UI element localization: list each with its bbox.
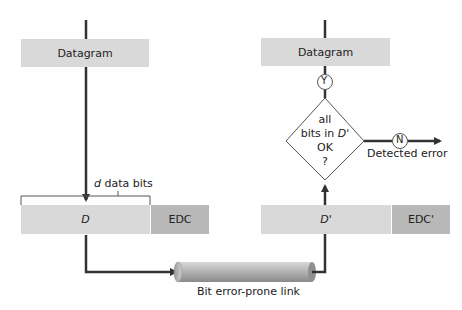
receiver-data-label: D': [320, 213, 332, 226]
sender-edc-label: EDC: [168, 213, 191, 226]
sender-datagram-label: Datagram: [57, 47, 112, 60]
sender-data-label: D: [81, 213, 89, 226]
receiver-edc-label: EDC': [408, 213, 434, 226]
receiver-data-field: D': [261, 205, 391, 234]
receiver-datagram-box: Datagram: [261, 38, 390, 66]
sender-datagram-box: Datagram: [21, 39, 149, 67]
no-label: N: [396, 134, 403, 145]
sender-to-link-line: [86, 235, 170, 272]
sender-edc-field: EDC: [151, 205, 209, 234]
decision-text: all bits in D' OK ?: [290, 113, 360, 169]
receiver-edc-field: EDC': [392, 205, 450, 234]
detected-error-label: Detected error: [367, 147, 448, 160]
sender-data-field: D: [21, 205, 150, 234]
yes-label: Y: [321, 75, 327, 86]
data-bits-label: d data bits: [94, 177, 153, 190]
receiver-datagram-label: Datagram: [298, 46, 353, 59]
link-label: Bit error-prone link: [197, 285, 300, 298]
link-cylinder-body: [178, 262, 312, 282]
